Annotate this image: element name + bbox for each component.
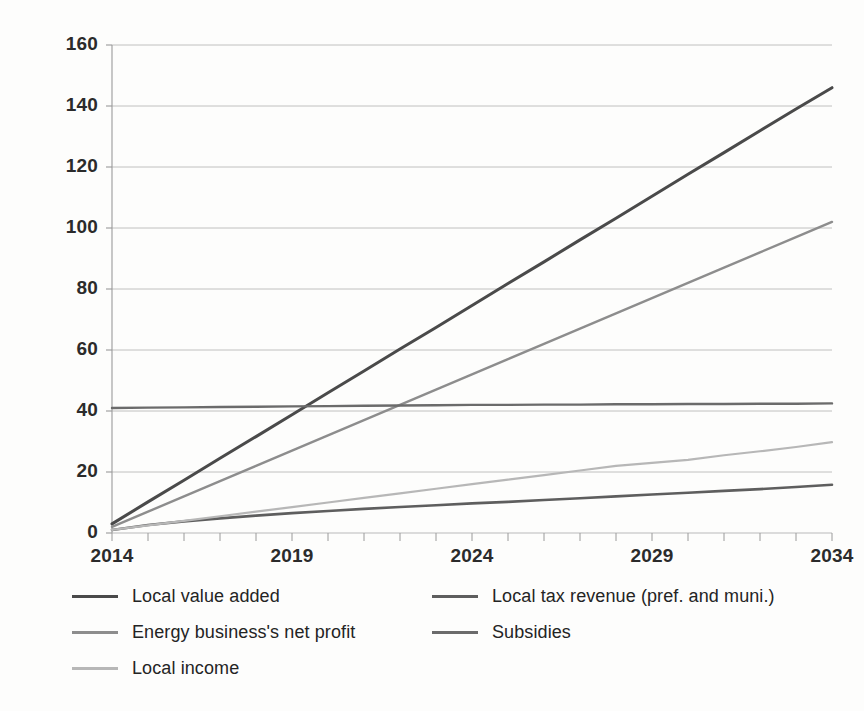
y-tick-label: 140	[28, 94, 98, 116]
legend-swatch-icon	[432, 631, 478, 634]
x-tick-label: 2034	[787, 545, 864, 567]
x-tick-label: 2029	[607, 545, 697, 567]
y-tick-label: 80	[28, 277, 98, 299]
axis-lines	[106, 45, 112, 533]
y-tick-label: 40	[28, 399, 98, 421]
legend-label: Local income	[132, 658, 239, 679]
y-tick-label: 20	[28, 460, 98, 482]
legend-item[interactable]: Subsidies	[422, 615, 822, 649]
x-tick-label: 2019	[247, 545, 337, 567]
chart-legend: Local value addedLocal tax revenue (pref…	[62, 578, 852, 686]
legend-swatch-icon	[432, 595, 478, 598]
y-tick-label: 100	[28, 216, 98, 238]
x-tick-label: 2024	[427, 545, 517, 567]
legend-label: Local tax revenue (pref. and muni.)	[492, 586, 775, 607]
legend-swatch-icon	[72, 667, 118, 670]
legend-spacer	[422, 651, 822, 685]
line-chart: 020406080100120140160 201420192024202920…	[0, 0, 864, 711]
legend-label: Local value added	[132, 586, 280, 607]
legend-item[interactable]: Local income	[62, 651, 422, 685]
legend-swatch-icon	[72, 631, 118, 634]
legend-label: Subsidies	[492, 622, 571, 643]
legend-label: Energy business's net profit	[132, 622, 355, 643]
legend-item[interactable]: Energy business's net profit	[62, 615, 422, 649]
legend-item[interactable]: Local tax revenue (pref. and muni.)	[422, 579, 822, 613]
x-axis-ticks	[112, 533, 832, 541]
series-lines	[112, 88, 832, 530]
series-line	[112, 403, 832, 408]
series-line	[112, 222, 832, 527]
y-tick-label: 60	[28, 338, 98, 360]
legend-swatch-icon	[72, 595, 118, 598]
legend-item[interactable]: Local value added	[62, 579, 422, 613]
x-tick-label: 2014	[67, 545, 157, 567]
y-tick-label: 120	[28, 155, 98, 177]
y-tick-label: 0	[28, 521, 98, 543]
series-line	[112, 485, 832, 530]
y-tick-label: 160	[28, 33, 98, 55]
series-line	[112, 88, 832, 524]
series-line	[112, 442, 832, 530]
